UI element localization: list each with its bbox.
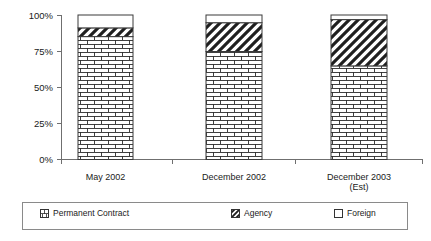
x-axis	[62, 160, 424, 165]
bar-segment-agency	[206, 23, 262, 52]
bar-group-may-2002	[78, 15, 133, 160]
brick-swatch-icon	[40, 209, 49, 218]
chart-plot-area: 100% 75% 50% 25% 0%	[0, 0, 431, 200]
y-axis: 100% 75% 50% 25% 0%	[29, 10, 62, 165]
legend-label-agency: Agency	[244, 209, 272, 218]
bar-segment-permanent-contract	[206, 52, 262, 160]
x-category-label-2-sub: (Est)	[350, 182, 369, 192]
x-category-label-2: December 2003	[327, 172, 391, 182]
empty-swatch-icon	[334, 209, 343, 218]
legend-item-foreign[interactable]: Foreign	[334, 209, 376, 218]
hatch-swatch-icon	[231, 209, 240, 218]
y-tick-label-50: 50%	[34, 82, 54, 93]
legend-label-permanent-contract: Permanent Contract	[53, 209, 129, 218]
stacked-bar-chart: 100% 75% 50% 25% 0%	[0, 0, 431, 241]
bar-segment-permanent-contract	[331, 66, 387, 160]
y-tick-label-100: 100%	[29, 10, 54, 21]
legend-item-agency[interactable]: Agency	[231, 209, 272, 218]
y-tick-label-25: 25%	[34, 118, 54, 129]
bar-segment-permanent-contract	[78, 37, 133, 160]
legend-item-permanent-contract[interactable]: Permanent Contract	[40, 209, 129, 218]
bar-group-december-2002	[206, 15, 262, 160]
y-axis-ticks	[57, 16, 62, 160]
legend-label-foreign: Foreign	[347, 209, 376, 218]
x-axis-ticks	[62, 160, 423, 165]
bar-segment-foreign	[206, 15, 262, 23]
bar-segment-agency	[78, 28, 133, 37]
y-tick-label-0: 0%	[39, 154, 53, 165]
x-category-label-0: May 2002	[86, 172, 126, 182]
x-category-label-1: December 2002	[202, 172, 266, 182]
chart-legend: Permanent Contract Agency Foreign	[22, 202, 408, 230]
bar-segment-agency	[331, 20, 387, 66]
y-tick-label-75: 75%	[34, 46, 54, 57]
bar-segment-foreign	[78, 15, 133, 28]
bar-segment-foreign	[331, 15, 387, 20]
bar-group-december-2003-est	[331, 15, 387, 160]
